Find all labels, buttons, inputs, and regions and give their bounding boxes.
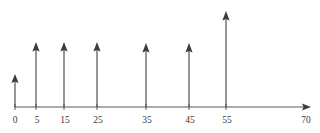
stem-45 — [185, 43, 192, 107]
x-tick-label-35: 35 — [142, 115, 152, 125]
x-tick-label-70: 70 — [301, 115, 311, 125]
x-tick-label-5: 5 — [35, 115, 40, 125]
x-tick-label-0: 0 — [13, 115, 18, 125]
x-tick-label-45: 45 — [185, 115, 195, 125]
stem-0 — [11, 74, 18, 107]
impulse-diagram-figure: 0 5 15 25 35 45 55 70 — [0, 0, 320, 133]
impulse-plot-svg: 0 5 15 25 35 45 55 70 — [0, 0, 320, 133]
x-tick-label-55: 55 — [222, 115, 232, 125]
stem-15 — [60, 42, 67, 107]
x-tick-label-15: 15 — [60, 115, 70, 125]
x-tick-label-25: 25 — [93, 115, 103, 125]
stem-5 — [32, 42, 39, 107]
stem-35 — [142, 43, 149, 107]
stem-55 — [222, 11, 229, 107]
stem-25 — [93, 42, 100, 107]
